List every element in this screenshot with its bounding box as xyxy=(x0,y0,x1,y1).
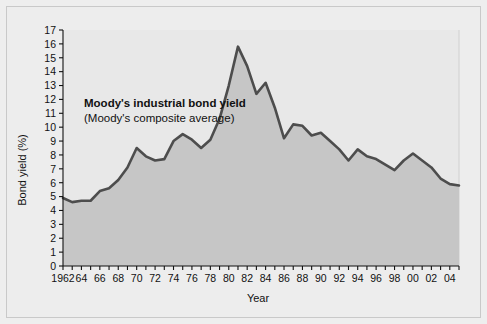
x-tick-label: 92 xyxy=(333,272,345,284)
x-tick-label: 88 xyxy=(297,272,309,284)
y-tick-label: 7 xyxy=(50,163,56,175)
y-tick-label: 15 xyxy=(44,52,56,64)
y-tick-label: 16 xyxy=(44,38,56,50)
x-axis xyxy=(63,266,459,270)
y-tick-label: 5 xyxy=(50,190,56,202)
x-tick-label: 04 xyxy=(444,272,456,284)
y-tick-label: 2 xyxy=(50,232,56,244)
y-tick-label: 10 xyxy=(44,121,56,133)
x-tick-label: 64 xyxy=(76,272,88,284)
chart-figure: 01234567891011121314151617 1962646668707… xyxy=(0,0,487,324)
y-tick-label: 8 xyxy=(50,149,56,161)
x-tick-label: 70 xyxy=(131,272,143,284)
x-tick-label: 1962 xyxy=(51,272,75,284)
y-axis-title: Bond yield (%) xyxy=(16,134,28,206)
x-axis-tick-labels: 1962646668707274767880828486889092949698… xyxy=(51,272,455,284)
y-tick-label: 12 xyxy=(44,93,56,105)
x-tick-label: 02 xyxy=(426,272,438,284)
y-tick-label: 13 xyxy=(44,79,56,91)
x-tick-label: 86 xyxy=(278,272,290,284)
x-tick-label: 00 xyxy=(407,272,419,284)
x-tick-label: 72 xyxy=(149,272,161,284)
series-annotation-primary: Moody's industrial bond yield xyxy=(84,97,246,109)
y-tick-label: 14 xyxy=(44,65,56,77)
x-tick-label: 66 xyxy=(94,272,106,284)
x-tick-label: 74 xyxy=(168,272,180,284)
series-annotation-secondary: (Moody's composite average) xyxy=(84,112,235,124)
x-tick-label: 82 xyxy=(241,272,253,284)
y-tick-label: 9 xyxy=(50,135,56,147)
x-tick-label: 98 xyxy=(389,272,401,284)
y-tick-label: 11 xyxy=(45,107,56,119)
y-tick-label: 0 xyxy=(50,260,56,272)
y-tick-label: 3 xyxy=(50,218,56,230)
x-tick-label: 80 xyxy=(223,272,235,284)
y-tick-label: 1 xyxy=(50,246,56,258)
x-tick-label: 94 xyxy=(352,272,364,284)
x-tick-label: 78 xyxy=(205,272,217,284)
y-tick-label: 17 xyxy=(44,24,56,36)
x-tick-label: 96 xyxy=(370,272,382,284)
bond-yield-chart: 01234567891011121314151617 1962646668707… xyxy=(0,0,487,324)
x-tick-label: 90 xyxy=(315,272,327,284)
y-tick-label: 4 xyxy=(50,204,56,216)
x-tick-label: 84 xyxy=(260,272,272,284)
y-tick-label: 6 xyxy=(50,177,56,189)
x-axis-title: Year xyxy=(247,292,270,304)
y-axis-tick-labels: 01234567891011121314151617 xyxy=(44,24,56,272)
x-tick-label: 68 xyxy=(112,272,124,284)
x-tick-label: 76 xyxy=(186,272,198,284)
y-axis xyxy=(59,30,63,266)
